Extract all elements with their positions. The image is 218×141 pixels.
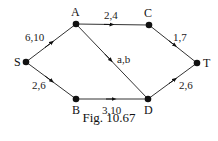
edge-label-s-a: 6,10 [25, 31, 45, 43]
node-d [145, 96, 152, 103]
node-b [73, 96, 80, 103]
node-s [23, 59, 30, 66]
edge-a-c [76, 24, 149, 25]
arrow-icon [45, 76, 52, 81]
edge-label-a-c: 2,4 [104, 9, 118, 21]
edge-a-d [76, 24, 148, 99]
arrow-icon [45, 42, 52, 47]
node-a [73, 21, 80, 28]
arrow-icon [105, 54, 111, 60]
node-t [194, 60, 201, 67]
figure-caption: Fig. 10.67 [0, 110, 218, 126]
edge-label-a-d: a,b [117, 53, 131, 65]
node-label-t: T [203, 56, 211, 70]
node-label-a: A [71, 5, 80, 19]
arrow-icon [169, 79, 175, 83]
edge-label-d-t: 2,6 [179, 79, 193, 91]
edge-label-c-t: 1,7 [173, 31, 187, 43]
node-label-c: C [144, 6, 152, 20]
edge-label-s-b: 2,6 [32, 79, 46, 91]
node-label-s: S [14, 55, 21, 69]
node-c [146, 22, 153, 29]
